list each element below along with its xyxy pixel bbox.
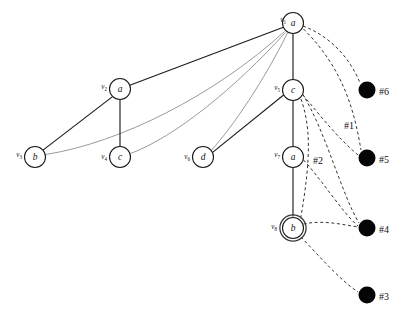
dashed-edge-group — [300, 26, 361, 292]
edge-tag-tag2: #2 — [313, 155, 323, 166]
terminal-label-t3: #3 — [379, 291, 389, 302]
terminal-label-t4: #4 — [379, 224, 389, 235]
terminal-label-t5: #5 — [379, 154, 389, 165]
node-id-v6: v6 — [184, 153, 190, 162]
terminal-dot-t3 — [359, 287, 376, 304]
terminal-label-t6: #6 — [379, 86, 389, 97]
node-id-v3: v3 — [16, 151, 22, 160]
node-id-v8: v8 — [271, 223, 277, 232]
graph-node-v7[interactable]: av7 — [274, 147, 303, 168]
graph-canvas: av1av2bv3cv4cv5dv6av7bv8 #6#5#4#3 #1#2 — [0, 0, 411, 320]
terminal-t5[interactable]: #5 — [359, 150, 390, 167]
node-label-v6: d — [201, 152, 206, 162]
node-label-v3: b — [33, 152, 38, 162]
match-edge-d-v8-t3 — [301, 237, 358, 292]
edge-tag-tag1: #1 — [344, 120, 354, 131]
graph-node-v3[interactable]: bv3 — [16, 147, 45, 168]
terminal-t4[interactable]: #4 — [359, 220, 390, 237]
graph-figure: av1av2bv3cv4cv5dv6av7bv8 #6#5#4#3 #1#2 — [0, 0, 411, 320]
node-label-v8: b — [291, 223, 296, 233]
node-id-v2: v2 — [101, 83, 107, 92]
graph-edge-e-v5-v6 — [213, 95, 284, 152]
terminal-dot-t4 — [359, 220, 376, 237]
node-id-v4: v4 — [101, 153, 107, 162]
match-edge-d-v8-t4 — [304, 222, 359, 227]
node-id-v7: v7 — [274, 151, 280, 160]
graph-node-v5[interactable]: cv5 — [274, 80, 303, 101]
graph-node-v2[interactable]: av2 — [101, 79, 130, 100]
node-label-v7: a — [291, 152, 296, 162]
gray-curved-edge-group — [46, 32, 288, 155]
match-edge-d-v5-t4 — [303, 94, 360, 223]
graph-node-v1[interactable]: av1 — [280, 13, 303, 34]
node-id-v5: v5 — [274, 84, 280, 93]
terminal-dot-t6 — [359, 82, 376, 99]
graph-edge-e-v2-v3 — [43, 97, 112, 150]
graph-node-v6[interactable]: dv6 — [184, 147, 213, 168]
match-edge-d-v1-t5 — [304, 29, 362, 150]
terminal-t6[interactable]: #6 — [359, 82, 390, 99]
match-edge-d-v1-t6 — [303, 26, 360, 83]
graph-node-v4[interactable]: cv4 — [101, 147, 130, 168]
node-group: av1av2bv3cv4cv5dv6av7bv8 — [16, 13, 306, 242]
terminal-dot-group: #6#5#4#3 — [359, 82, 390, 304]
node-label-v1: a — [291, 18, 296, 28]
terminal-t3[interactable]: #3 — [359, 287, 390, 304]
graph-edge-e-v1-v2 — [130, 27, 284, 85]
node-label-v2: a — [118, 84, 123, 94]
terminal-dot-t5 — [359, 150, 376, 167]
match-edge-d-v7-t4 — [304, 160, 359, 226]
